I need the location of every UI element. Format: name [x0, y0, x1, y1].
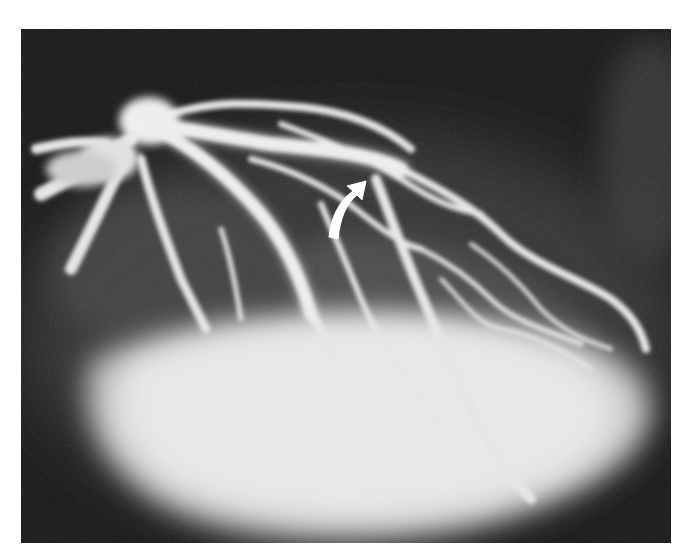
angiogram-image: Coronary angiogram showing contrast-fill… [21, 29, 671, 543]
angiogram-canvas [21, 29, 671, 543]
